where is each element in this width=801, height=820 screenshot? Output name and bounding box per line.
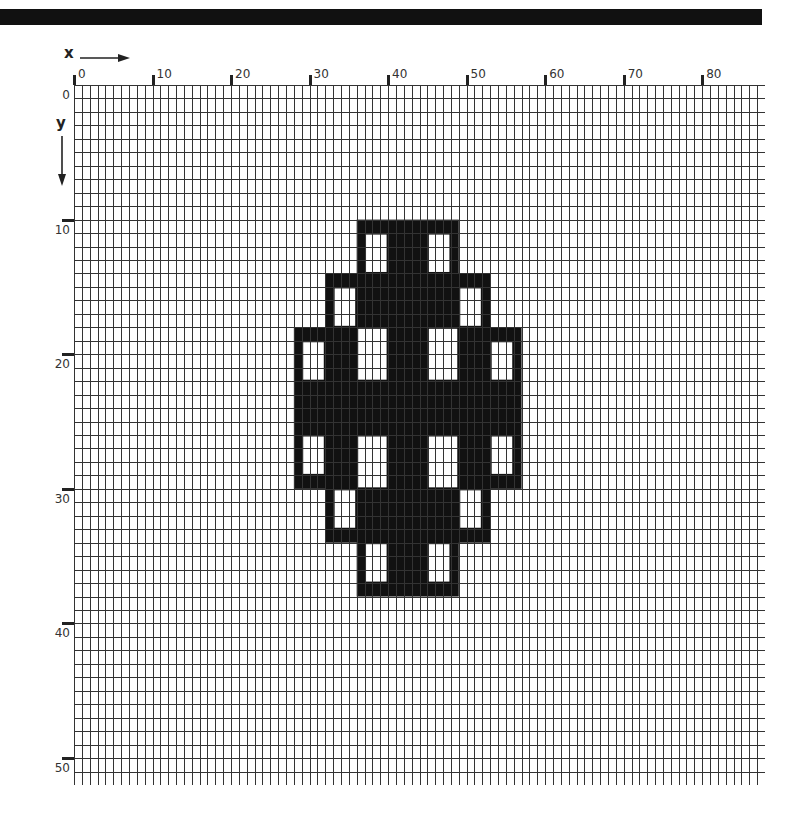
y-tick-mark [62, 622, 74, 625]
y-tick-mark [62, 219, 74, 222]
window-opening [460, 490, 481, 527]
window-opening [303, 437, 324, 474]
grid-canvas [74, 85, 765, 785]
y-tick-label: 30 [48, 492, 70, 506]
y-tick-mark [62, 757, 74, 760]
top-black-bar [0, 9, 762, 25]
x-axis-label: x [64, 44, 74, 62]
window-opening [429, 544, 450, 581]
x-tick-mark [309, 75, 312, 85]
x-tick-label: 20 [235, 67, 250, 81]
window-opening [366, 235, 387, 272]
y-tick-label: 0 [48, 88, 70, 102]
x-tick-mark [623, 75, 626, 85]
window-opening [335, 288, 356, 325]
x-tick-mark [544, 75, 547, 85]
y-axis-label: y [56, 114, 66, 132]
window-opening [429, 235, 450, 272]
coordinate-grid [74, 85, 765, 785]
x-tick-label: 70 [628, 67, 643, 81]
y-tick-mark [62, 488, 74, 491]
y-direction-arrow-icon [56, 136, 68, 186]
x-direction-arrow-icon [80, 52, 130, 64]
x-tick-mark [152, 75, 155, 85]
x-tick-mark [466, 75, 469, 85]
window-opening [335, 490, 356, 527]
x-tick-mark [73, 75, 76, 85]
x-tick-label: 10 [157, 67, 172, 81]
y-tick-label: 20 [48, 357, 70, 371]
x-tick-label: 60 [549, 67, 564, 81]
window-opening [492, 342, 513, 379]
y-tick-mark [62, 353, 74, 356]
window-opening [460, 288, 481, 325]
window-opening [366, 544, 387, 581]
x-tick-mark [701, 75, 704, 85]
x-tick-mark [387, 75, 390, 85]
x-tick-label: 50 [471, 67, 486, 81]
y-tick-label: 10 [48, 223, 70, 237]
x-tick-label: 80 [706, 67, 721, 81]
x-tick-label: 0 [78, 67, 86, 81]
window-opening [303, 342, 324, 379]
x-tick-label: 40 [392, 67, 407, 81]
y-tick-label: 40 [48, 626, 70, 640]
x-tick-label: 30 [314, 67, 329, 81]
x-tick-mark [230, 75, 233, 85]
y-tick-label: 50 [48, 761, 70, 775]
window-opening [492, 437, 513, 474]
